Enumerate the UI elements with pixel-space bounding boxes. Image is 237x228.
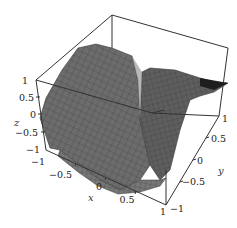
surface-plot: 1 0.5 0 −0.5 −1 z −1 −0.5 0 0.5 1 x −1 −… [0, 0, 237, 228]
z-axis: 1 0.5 0 −0.5 −1 z [13, 75, 45, 155]
z-tick-1: 1 [22, 75, 28, 86]
x-tick--1: −1 [31, 156, 45, 167]
y-tick-1: 1 [222, 113, 228, 124]
z-axis-label: z [13, 117, 20, 128]
y-tick--1: −1 [170, 203, 184, 214]
y-tick--0.5: −0.5 [182, 176, 205, 187]
y-axis-label: y [217, 165, 224, 176]
y-tick-0: 0 [197, 155, 203, 166]
x-tick--0.5: −0.5 [49, 169, 72, 180]
x-tick-1: 1 [160, 206, 166, 217]
z-tick--1: −1 [26, 144, 40, 155]
z-tick--0.5: −0.5 [15, 127, 38, 138]
x-tick-0.5: 0.5 [119, 194, 134, 205]
z-tick-0.5: 0.5 [19, 92, 34, 103]
y-tick-0.5: 0.5 [211, 133, 226, 144]
x-tick-0: 0 [96, 181, 102, 192]
x-axis-label: x [88, 192, 94, 203]
z-tick-0: 0 [30, 109, 36, 120]
